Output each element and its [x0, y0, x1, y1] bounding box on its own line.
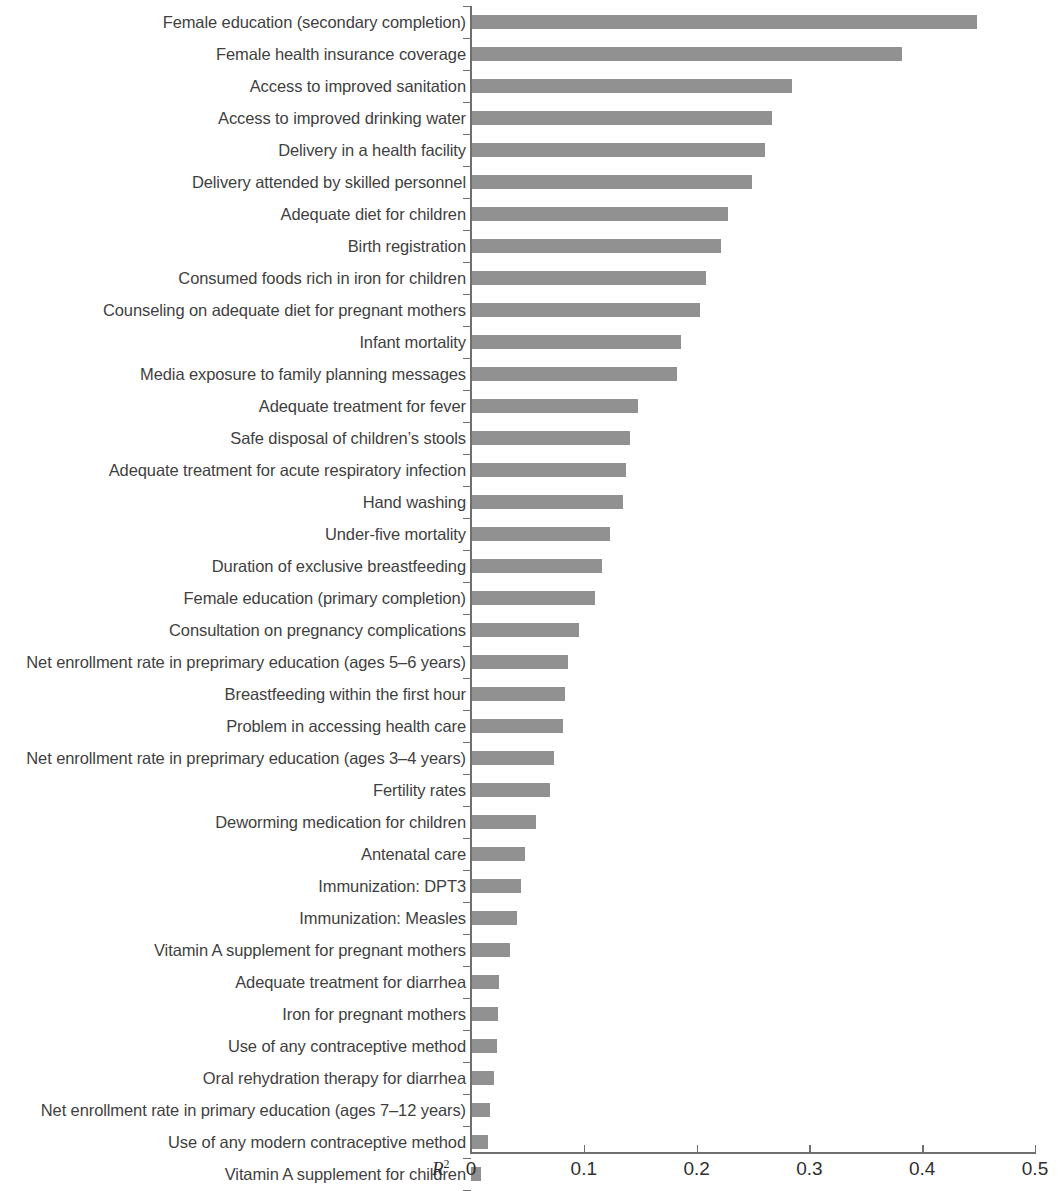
y-axis-tick [463, 902, 471, 903]
y-axis-tick [463, 70, 471, 71]
bar-row: Duration of exclusive breastfeeding [0, 550, 1058, 582]
bar-row: Female health insurance coverage [0, 38, 1058, 70]
bar [471, 975, 499, 989]
bar-row: Access to improved sanitation [0, 70, 1058, 102]
bar-row: Counseling on adequate diet for pregnant… [0, 294, 1058, 326]
bar-track [471, 6, 1041, 38]
x-axis-tick [697, 1145, 698, 1153]
category-label: Net enrollment rate in preprimary educat… [0, 742, 466, 774]
bar [471, 1135, 488, 1149]
bar-row: Net enrollment rate in preprimary educat… [0, 646, 1058, 678]
category-label: Iron for pregnant mothers [0, 998, 466, 1030]
category-label: Counseling on adequate diet for pregnant… [0, 294, 466, 326]
y-axis-tick [463, 262, 471, 263]
x-axis-tick [1035, 1145, 1036, 1153]
bar-track [471, 774, 1041, 806]
bar [471, 559, 602, 573]
x-axis-title-text: R [432, 1158, 444, 1179]
y-axis-tick [463, 582, 471, 583]
bar [471, 1103, 490, 1117]
y-axis-tick [463, 486, 471, 487]
bar [471, 303, 700, 317]
bar [471, 719, 563, 733]
bar [471, 207, 728, 221]
bar-track [471, 902, 1041, 934]
category-label: Media exposure to family planning messag… [0, 358, 466, 390]
bar-track [471, 518, 1041, 550]
bar-track [471, 38, 1041, 70]
bar [471, 687, 565, 701]
category-label: Consumed foods rich in iron for children [0, 262, 466, 294]
bar-row: Problem in accessing health care [0, 710, 1058, 742]
bar [471, 943, 510, 957]
bar-track [471, 1062, 1041, 1094]
category-label: Fertility rates [0, 774, 466, 806]
bar-track [471, 998, 1041, 1030]
x-axis-tick-label: 0 [466, 1158, 477, 1180]
bar-row: Hand washing [0, 486, 1058, 518]
bar [471, 431, 630, 445]
x-axis-tick [809, 1145, 810, 1153]
category-label: Immunization: Measles [0, 902, 466, 934]
category-label: Adequate diet for children [0, 198, 466, 230]
bar-track [471, 870, 1041, 902]
category-label: Adequate treatment for fever [0, 390, 466, 422]
category-label: Oral rehydration therapy for diarrhea [0, 1062, 466, 1094]
bar-row: Breastfeeding within the first hour [0, 678, 1058, 710]
bar [471, 783, 550, 797]
bar [471, 463, 626, 477]
bar [471, 623, 579, 637]
bar-track [471, 838, 1041, 870]
bar-track [471, 454, 1041, 486]
bar [471, 239, 721, 253]
bar-row: Immunization: Measles [0, 902, 1058, 934]
bar-track [471, 294, 1041, 326]
y-axis-tick [463, 774, 471, 775]
y-axis-tick [463, 1062, 471, 1063]
bar-row: Media exposure to family planning messag… [0, 358, 1058, 390]
category-label: Hand washing [0, 486, 466, 518]
bar [471, 1039, 497, 1053]
bar-row: Under-five mortality [0, 518, 1058, 550]
bar [471, 1071, 494, 1085]
bar-track [471, 742, 1041, 774]
y-axis-tick [463, 646, 471, 647]
bar-row: Adequate diet for children [0, 198, 1058, 230]
y-axis-tick [463, 1094, 471, 1095]
category-label: Net enrollment rate in preprimary educat… [0, 646, 466, 678]
category-label: Use of any modern contraceptive method [0, 1126, 466, 1158]
x-axis-tick [922, 1145, 923, 1153]
bar-row: Female education (secondary completion) [0, 6, 1058, 38]
bar-row: Birth registration [0, 230, 1058, 262]
y-axis-tick [463, 550, 471, 551]
bar-track [471, 646, 1041, 678]
bar-row: Deworming medication for children [0, 806, 1058, 838]
bar-row: Vitamin A supplement for pregnant mother… [0, 934, 1058, 966]
bar-track [471, 1158, 1041, 1190]
bar-track [471, 934, 1041, 966]
x-axis-tick-label: 0.2 [683, 1158, 709, 1180]
category-label: Problem in accessing health care [0, 710, 466, 742]
bar-track [471, 262, 1041, 294]
bar [471, 47, 902, 61]
category-label: Antenatal care [0, 838, 466, 870]
bar [471, 751, 554, 765]
bar-track [471, 390, 1041, 422]
bar-row: Immunization: DPT3 [0, 870, 1058, 902]
bar-row: Delivery in a health facility [0, 134, 1058, 166]
y-axis-tick [463, 230, 471, 231]
category-label: Infant mortality [0, 326, 466, 358]
x-axis-tick [584, 1145, 585, 1153]
y-axis-tick [463, 166, 471, 167]
bar [471, 655, 568, 669]
bar [471, 15, 977, 29]
category-label: Duration of exclusive breastfeeding [0, 550, 466, 582]
y-axis-tick [463, 6, 471, 7]
bar-row: Adequate treatment for acute respiratory… [0, 454, 1058, 486]
bar [471, 399, 638, 413]
bar-track [471, 166, 1041, 198]
y-axis-tick [463, 678, 471, 679]
bar [471, 815, 536, 829]
bar-row: Vitamin A supplement for children [0, 1158, 1058, 1190]
bar [471, 367, 677, 381]
